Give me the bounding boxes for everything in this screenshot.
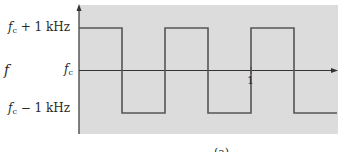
y-axis-label: f xyxy=(4,62,9,78)
y-axis-arrow-icon xyxy=(77,4,82,11)
y-tick-mid-sub: c xyxy=(68,68,72,77)
y-tick-low-rest: − 1 kHz xyxy=(17,101,70,115)
y-tick-low: fc − 1 kHz xyxy=(8,101,70,116)
y-tick-high: fc + 1 kHz xyxy=(8,20,70,35)
x-axis-arrow-icon xyxy=(331,68,338,73)
y-tick-high-rest: + 1 kHz xyxy=(17,20,70,34)
figure-caption: (a) xyxy=(214,146,229,152)
y-tick-mid: fc xyxy=(64,62,73,77)
x-tick-label-1: 1 xyxy=(247,74,254,87)
